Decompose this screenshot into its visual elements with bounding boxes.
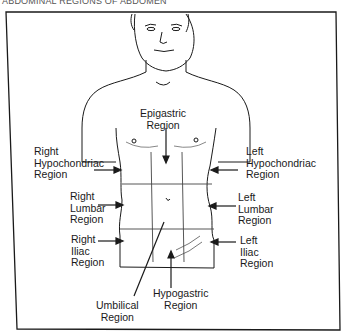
abdominal-regions-diagram: ABDOMINAL REGIONS OF ABDOMEN — [0, 0, 344, 334]
head-drawing — [131, 14, 194, 72]
label-line: Umbilical — [96, 300, 139, 312]
label-line: Right — [70, 191, 106, 203]
label-line: Region — [153, 300, 208, 312]
label-line: Right — [71, 234, 104, 246]
label-left-hypochondriac-region: Left Hypochondriac Region — [246, 146, 316, 181]
label-line: Right — [34, 146, 104, 158]
label-right-hypochondriac-region: Right Hypochondriac Region — [34, 146, 104, 181]
label-line: Region — [70, 214, 106, 226]
label-line: Region — [34, 169, 104, 181]
label-line: Region — [246, 169, 316, 181]
label-line: Left — [238, 192, 274, 204]
region-grid — [120, 152, 214, 262]
label-hypogastric-region: Hypogastric Region — [153, 288, 208, 311]
label-right-lumbar-region: Right Lumbar Region — [70, 191, 106, 226]
label-line: Region — [96, 312, 139, 324]
label-line: Region — [240, 258, 273, 270]
label-left-iliac-region: Left Iliac Region — [240, 235, 273, 270]
label-line: Region — [140, 120, 186, 132]
leader-arrows — [94, 128, 238, 296]
label-right-iliac-region: Right Iliac Region — [71, 234, 104, 269]
label-left-lumbar-region: Left Lumbar Region — [238, 192, 274, 227]
label-line: Epigastric — [140, 108, 186, 120]
label-line: Region — [238, 215, 274, 227]
label-line: Left — [246, 146, 316, 158]
label-epigastric-region: Epigastric Region — [140, 108, 186, 131]
label-line: Region — [71, 257, 104, 269]
label-line: Left — [240, 235, 273, 247]
label-line: Hypogastric — [153, 288, 208, 300]
label-umbilical-region: Umbilical Region — [96, 300, 139, 323]
